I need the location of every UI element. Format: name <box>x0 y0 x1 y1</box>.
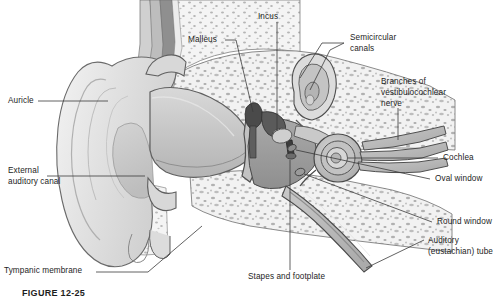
label-malleus: Malleus <box>188 35 217 45</box>
label-auricle: Auricle <box>8 96 34 106</box>
label-external-auditory-canal-line1: External <box>8 166 39 176</box>
label-semicircular-canals-line1: Semicircular <box>350 33 396 43</box>
label-tympanic-membrane: Tympanic membrane <box>4 266 82 276</box>
malleus-handle <box>249 126 256 158</box>
figure-caption: FIGURE 12-25 <box>22 288 85 299</box>
label-nerve-branches-line2: vestibulocochlear <box>381 88 446 98</box>
label-cochlea: Cochlea <box>443 153 474 163</box>
label-oval-window: Oval window <box>435 174 483 184</box>
ear-anatomy-figure: Auricle External auditory canal Tympanic… <box>0 0 503 299</box>
label-round-window: Round window <box>437 217 492 227</box>
label-semicircular-canals-line2: canals <box>350 44 374 54</box>
label-external-auditory-canal-line2: auditory canal <box>8 177 60 187</box>
stapes-footplate <box>286 153 296 159</box>
malleus-head <box>245 103 262 129</box>
label-auditory-tube-line2: (eustachian) tube <box>428 247 493 257</box>
label-incus: Incus <box>258 12 278 22</box>
label-stapes-and-footplate: Stapes and footplate <box>248 272 325 282</box>
label-nerve-branches-line1: Branches of <box>381 77 426 87</box>
label-nerve-branches-line3: nerve <box>381 99 402 109</box>
label-auditory-tube-line1: Auditory <box>428 236 459 246</box>
